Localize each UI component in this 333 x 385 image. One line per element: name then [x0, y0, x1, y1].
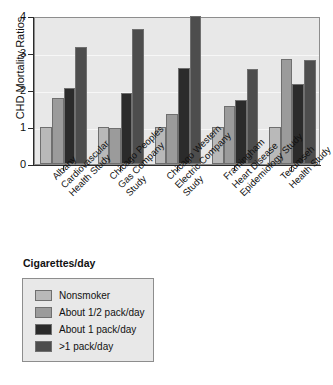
legend-label: >1 pack/day: [59, 341, 113, 352]
legend-item[interactable]: About 1/2 pack/day: [35, 305, 145, 320]
legend-swatch: [35, 324, 52, 335]
legend-item[interactable]: Nonsmoker: [35, 288, 110, 303]
bar: [52, 98, 64, 164]
legend-label: About 1/2 pack/day: [59, 307, 145, 318]
chd-mortality-bar-chart-figure: CHD Mortality Ratios 01234 AlbanyCardiov…: [0, 0, 333, 385]
legend-swatch: [35, 307, 52, 318]
y-tick-label: 3: [0, 48, 26, 59]
legend-title: Cigarettes/day: [23, 257, 95, 269]
legend-label: Nonsmoker: [59, 290, 110, 301]
y-tick-label: 2: [0, 85, 26, 96]
bar: [40, 127, 52, 164]
y-tick-label: 1: [0, 122, 26, 133]
legend-item[interactable]: >1 pack/day: [35, 339, 113, 354]
legend-swatch: [35, 341, 52, 352]
legend-swatch: [35, 290, 52, 301]
legend-box: NonsmokerAbout 1/2 pack/dayAbout 1 pack/…: [22, 278, 154, 362]
legend-label: About 1 pack/day: [59, 324, 136, 335]
y-tick-label: 4: [0, 11, 26, 22]
y-tick-label: 0: [0, 159, 26, 170]
legend-item[interactable]: About 1 pack/day: [35, 322, 136, 337]
